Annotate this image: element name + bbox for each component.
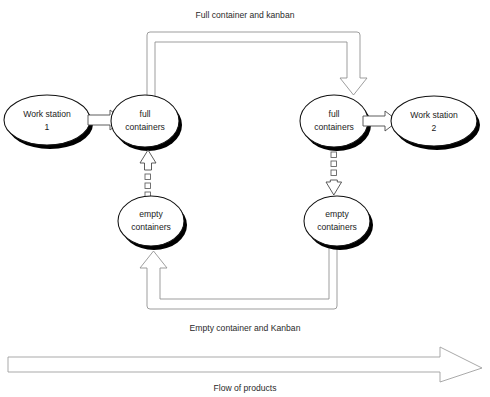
full-loop-pipe-path [147,32,367,105]
flow-of-products-arrow-path [8,347,482,382]
caption-empty-container-and-kanban: Empty container and Kanban [190,323,301,333]
work-station-1-label-line2: 1 [45,122,50,132]
kanban-signal-left-arrowhead [140,150,156,170]
node-empty-containers-right: empty containers [304,196,373,250]
connector-kanban-signal-right [326,152,342,195]
empty-containers-right-label-line2: containers [317,222,357,232]
node-work-station-1: Work station 1 [4,95,93,149]
full-containers-left-label-line2: containers [125,122,165,132]
full-containers-right-label-line2: containers [314,122,354,132]
empty-containers-left-label-line1: empty [139,209,163,219]
kanban-signal-left-marker-2 [145,183,151,189]
kanban-signal-right-marker-3 [331,170,337,176]
empty-containers-right-label-line1: empty [325,209,349,219]
full-containers-right-body [300,95,368,147]
kanban-signal-right-arrowhead [326,180,342,195]
work-station-2-label-line1: Work station [410,110,458,120]
kanban-signal-left-marker-1 [145,174,151,180]
kanban-signal-right-marker-1 [331,152,337,158]
empty-containers-left-body [118,196,184,246]
node-work-station-2: Work station 2 [391,96,480,150]
work-station-1-label-line1: Work station [23,109,71,119]
full-containers-left-label-line1: full [140,109,151,119]
work-station-2-body [391,96,477,146]
node-full-containers-left: full containers [111,95,182,151]
work-station-2-label-line2: 2 [432,123,437,133]
connector-kanban-signal-left [140,150,156,198]
full-containers-left-body [111,95,179,147]
kanban-signal-right-marker-2 [331,161,337,167]
connector-full-loop-pipe [147,32,367,105]
caption-full-container-and-kanban: Full container and kanban [196,10,295,20]
node-full-containers-right: full containers [300,95,371,151]
work-station-1-body [4,95,90,145]
empty-containers-right-body [304,196,370,246]
node-empty-containers-left: empty containers [118,196,187,250]
diagram-canvas: Work station 1 full containers empty con… [0,0,490,397]
connector-flow-of-products-arrow [8,347,482,382]
empty-containers-left-label-line2: containers [131,222,171,232]
full-containers-right-label-line1: full [329,109,340,119]
caption-flow-of-products: Flow of products [213,383,276,393]
kanban-flow-diagram: Work station 1 full containers empty con… [0,0,490,397]
